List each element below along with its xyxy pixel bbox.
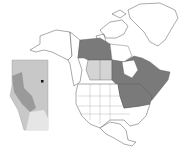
arctic-islands: [96, 10, 128, 42]
location-marker: [41, 80, 44, 83]
region-nwt: [78, 38, 112, 60]
region-alberta-light: [86, 60, 112, 80]
alberta-inset: [10, 60, 48, 130]
greenland: [128, 3, 178, 46]
alaska: [30, 30, 72, 60]
north-america-map: [0, 0, 185, 151]
